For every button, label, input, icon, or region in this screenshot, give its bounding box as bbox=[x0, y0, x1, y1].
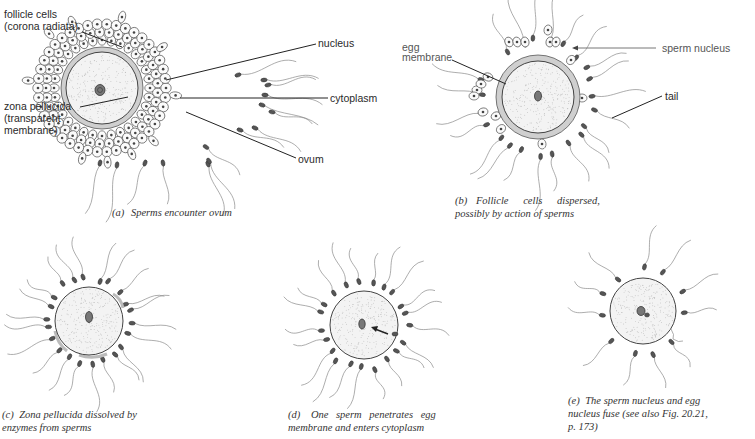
stipple-dot bbox=[110, 81, 111, 82]
stipple-dot bbox=[106, 90, 107, 91]
stipple-dot bbox=[112, 312, 113, 313]
stipple-dot bbox=[350, 307, 351, 308]
follicle-cell-nucleus bbox=[148, 130, 151, 133]
stipple-dot bbox=[103, 292, 104, 293]
sperm-tail bbox=[20, 289, 49, 306]
stipple-dot bbox=[101, 297, 102, 298]
stipple-dot bbox=[96, 332, 97, 333]
stipple-dot bbox=[115, 102, 116, 103]
stipple-dot bbox=[360, 330, 361, 331]
stipple-dot bbox=[550, 88, 551, 89]
sperm-tail bbox=[101, 243, 116, 279]
stipple-dot bbox=[373, 334, 374, 335]
stipple-dot bbox=[127, 83, 128, 84]
stipple-dot bbox=[355, 298, 356, 299]
stipple-dot bbox=[89, 118, 90, 119]
stipple-dot bbox=[358, 344, 359, 345]
follicle-cell-nucleus bbox=[37, 96, 40, 99]
stipple-dot bbox=[541, 116, 542, 117]
stipple-dot bbox=[73, 333, 74, 334]
sperm-head bbox=[77, 360, 83, 367]
stipple-dot bbox=[107, 60, 108, 61]
stipple-dot bbox=[103, 306, 104, 307]
stipple-dot bbox=[536, 73, 537, 74]
stipple-dot bbox=[102, 104, 103, 105]
stipple-dot bbox=[120, 90, 121, 91]
stipple-dot bbox=[91, 304, 92, 305]
stipple-dot bbox=[634, 300, 635, 301]
stipple-dot bbox=[117, 75, 118, 76]
stipple-dot bbox=[542, 79, 543, 80]
stipple-dot bbox=[361, 306, 362, 307]
sperm-head bbox=[531, 35, 535, 42]
stipple-dot bbox=[378, 319, 379, 320]
stipple-dot bbox=[338, 323, 339, 324]
stipple-dot bbox=[88, 331, 89, 332]
stipple-dot bbox=[362, 304, 363, 305]
stipple-dot bbox=[105, 75, 106, 76]
stipple-dot bbox=[122, 101, 123, 102]
stipple-dot bbox=[525, 97, 526, 98]
stipple-dot bbox=[117, 331, 118, 332]
stipple-dot bbox=[118, 89, 119, 90]
stipple-dot bbox=[87, 95, 88, 96]
stipple-dot bbox=[104, 305, 105, 306]
stipple-dot bbox=[121, 94, 122, 95]
stipple-dot bbox=[654, 318, 655, 319]
stipple-dot bbox=[92, 101, 93, 102]
stipple-dot bbox=[623, 324, 624, 325]
follicle-cell-nucleus bbox=[61, 60, 64, 63]
sperm-head bbox=[236, 127, 243, 133]
stipple-dot bbox=[135, 88, 136, 89]
sperm-tail bbox=[375, 372, 385, 399]
stipple-dot bbox=[381, 309, 382, 310]
stipple-dot bbox=[101, 335, 102, 336]
follicle-cell-nucleus bbox=[56, 68, 59, 71]
stipple-dot bbox=[72, 305, 73, 306]
stipple-dot bbox=[92, 106, 93, 107]
sperm-tail bbox=[385, 247, 400, 284]
stipple-dot bbox=[370, 330, 371, 331]
stipple-dot bbox=[72, 331, 73, 332]
stipple-dot bbox=[615, 318, 616, 319]
stipple-dot bbox=[536, 129, 537, 130]
sperm-head bbox=[583, 64, 590, 70]
stipple-dot bbox=[81, 299, 82, 300]
stipple-dot bbox=[656, 314, 657, 315]
stipple-dot bbox=[96, 341, 97, 342]
stipple-dot bbox=[345, 350, 346, 351]
stipple-dot bbox=[649, 307, 650, 308]
stipple-dot bbox=[518, 105, 519, 106]
stipple-dot bbox=[544, 98, 545, 99]
sperm-tail bbox=[575, 281, 600, 292]
stipple-dot bbox=[626, 332, 627, 333]
stipple-dot bbox=[356, 309, 357, 310]
stipple-dot bbox=[105, 117, 106, 118]
stipple-dot bbox=[95, 108, 96, 109]
stipple-dot bbox=[62, 321, 63, 322]
stipple-dot bbox=[557, 88, 558, 89]
stipple-dot bbox=[68, 314, 69, 315]
stipple-dot bbox=[79, 108, 80, 109]
follicle-cell-nucleus bbox=[141, 48, 144, 51]
stipple-dot bbox=[653, 315, 654, 316]
panel-b: egg membrane sperm nucleus tail (b) Foll… bbox=[402, 0, 730, 219]
stipple-dot bbox=[103, 116, 104, 117]
stipple-dot bbox=[99, 64, 100, 65]
stipple-dot bbox=[117, 313, 118, 314]
stipple-dot bbox=[111, 321, 112, 322]
stipple-dot bbox=[515, 90, 516, 91]
stipple-dot bbox=[530, 92, 531, 93]
stipple-dot bbox=[537, 123, 538, 124]
stipple-dot bbox=[368, 304, 369, 305]
follicle-cell-nucleus bbox=[495, 115, 498, 118]
stipple-dot bbox=[363, 341, 364, 342]
stipple-dot bbox=[551, 84, 552, 85]
stipple-dot bbox=[557, 79, 558, 80]
follicle-cell-nucleus bbox=[86, 24, 89, 27]
stipple-dot bbox=[555, 125, 556, 126]
follicle-cell-nucleus bbox=[152, 64, 155, 67]
stipple-dot bbox=[88, 97, 89, 98]
stipple-dot bbox=[361, 337, 362, 338]
stipple-dot bbox=[85, 91, 86, 92]
